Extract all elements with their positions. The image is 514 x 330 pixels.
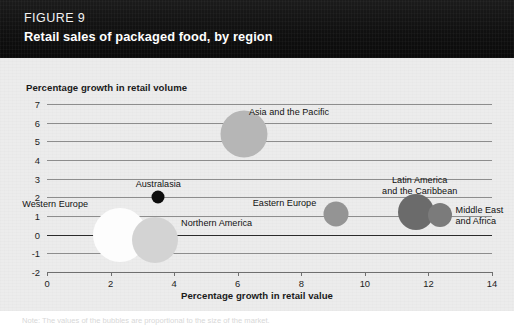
footnote-zone: Note: The values of the bubbles are prop…: [0, 311, 514, 330]
plot-area: 76543210-1-2 02468101214 Western EuropeN…: [47, 104, 492, 272]
y-tick-label: 0: [35, 235, 40, 236]
x-tick-label: 12: [423, 278, 433, 289]
figure-root: FIGURE 9 Retail sales of packaged food, …: [0, 0, 514, 330]
y-tick-label: 1: [35, 216, 40, 217]
x-tick-mark: [174, 272, 175, 276]
bubble-australasia[interactable]: [152, 191, 165, 204]
x-tick-label: 4: [172, 278, 177, 289]
x-tick-mark: [238, 272, 239, 276]
bubble-label: Middle East and Africa: [456, 205, 504, 226]
figure-header-text: FIGURE 9 Retail sales of packaged food, …: [24, 11, 502, 45]
x-tick-label: 14: [487, 278, 497, 289]
x-tick-mark: [492, 272, 493, 276]
gridline-y-4: 4: [47, 160, 492, 161]
bubble-northern-america[interactable]: [132, 217, 178, 263]
x-axis-title: Percentage growth in retail value: [0, 290, 514, 301]
y-tick-label: 5: [35, 141, 40, 142]
bubble-label: Northern America: [181, 218, 252, 229]
x-tick-mark: [301, 272, 302, 276]
figure-title: Retail sales of packaged food, by region: [24, 29, 502, 45]
x-tick-label: 0: [44, 278, 49, 289]
bubble-label: Australasia: [136, 179, 181, 190]
bubble-label: Asia and the Pacific: [249, 107, 329, 118]
x-tick-mark: [365, 272, 366, 276]
bubble-label: Eastern Europe: [253, 198, 316, 209]
y-tick-label: 4: [35, 160, 40, 161]
figure-number: FIGURE 9: [24, 11, 502, 26]
y-tick-label: -2: [32, 272, 40, 273]
gridline-y-5: 5: [47, 141, 492, 142]
x-axis-line: [47, 272, 492, 273]
gridline-y-7: 7: [47, 104, 492, 105]
gridline-y-6: 6: [47, 123, 492, 124]
y-tick-label: -1: [32, 253, 40, 254]
chart-panel: Percentage growth in retail volume 76543…: [0, 58, 514, 311]
figure-header-banner: FIGURE 9 Retail sales of packaged food, …: [0, 0, 514, 58]
footnote-text: Note: The values of the bubbles are prop…: [22, 316, 492, 325]
bubble-label: Western Europe: [22, 199, 88, 210]
bubble-middle-east-and-africa[interactable]: [428, 203, 452, 227]
x-tick-label: 2: [108, 278, 113, 289]
bubble-eastern-europe[interactable]: [324, 202, 349, 227]
y-tick-label: 7: [35, 104, 40, 105]
bubble-label: Latin America and the Caribbean: [382, 175, 457, 196]
x-tick-mark: [47, 272, 48, 276]
x-tick-label: 6: [235, 278, 240, 289]
y-tick-label: 6: [35, 123, 40, 124]
x-tick-label: 10: [360, 278, 370, 289]
y-tick-label: 3: [35, 179, 40, 180]
x-tick-label: 8: [299, 278, 304, 289]
x-tick-mark: [428, 272, 429, 276]
y-axis-title: Percentage growth in retail volume: [26, 82, 187, 93]
x-tick-mark: [111, 272, 112, 276]
